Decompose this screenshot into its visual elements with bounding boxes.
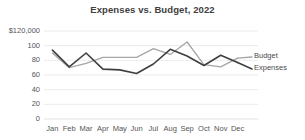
series-leader-expenses	[238, 63, 252, 69]
y-tick-label: 80	[0, 55, 40, 64]
x-tick-label-jan: Jan	[44, 124, 61, 133]
y-tick-label: 100	[0, 41, 40, 50]
y-tick-label: 20	[0, 99, 40, 108]
x-tick-label-feb: Feb	[61, 124, 78, 133]
x-tick-label-jun: Jun	[128, 124, 145, 133]
y-tick-label: 40	[0, 85, 40, 94]
chart-container: Expenses vs. Budget, 2022 020406080100$1…	[0, 0, 305, 140]
x-tick-label-mar: Mar	[78, 124, 95, 133]
x-tick-label-aug: Aug	[162, 124, 179, 133]
gridlines	[44, 31, 258, 119]
x-tick-label-oct: Oct	[196, 124, 213, 133]
series-label-expenses: Expenses	[254, 63, 287, 72]
x-tick-label-jul: Jul	[145, 124, 162, 133]
x-tick-label-dec: Dec	[229, 124, 246, 133]
x-tick-label-may: May	[111, 124, 128, 133]
y-tick-label: 0	[0, 114, 40, 123]
series-lines	[52, 42, 252, 74]
y-tick-label: 60	[0, 70, 40, 79]
series-leader-budget	[238, 57, 252, 58]
x-tick-label-nov: Nov	[212, 124, 229, 133]
x-tick-label-sep: Sep	[179, 124, 196, 133]
x-tick-label-apr: Apr	[95, 124, 112, 133]
y-tick-label: $120,000	[0, 26, 40, 35]
series-label-budget: Budget	[254, 51, 278, 60]
